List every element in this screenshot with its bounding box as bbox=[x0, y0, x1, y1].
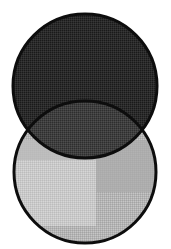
venn-canvas bbox=[0, 0, 171, 249]
venn-diagram-figure: Two-circle Venn diagram bbox=[0, 0, 171, 249]
